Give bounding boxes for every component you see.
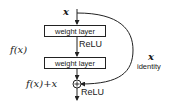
weight-layer-1-label: weight layer [55, 27, 95, 36]
relu-output-label: ReLU [81, 88, 104, 97]
add-node [73, 80, 81, 88]
weight-layer-2: weight layer [44, 57, 106, 69]
identity-label: identity [137, 63, 161, 71]
residual-function-label: f(x) [10, 45, 27, 55]
sum-label: f(x)+x [26, 79, 57, 89]
shortcut-x-label: x [148, 52, 154, 62]
residual-block-diagram: x weight layer ReLU weight layer f(x) f(… [0, 0, 179, 107]
weight-layer-1: weight layer [44, 25, 106, 37]
relu-middle-label: ReLU [79, 40, 102, 49]
weight-layer-2-label: weight layer [55, 59, 95, 68]
input-x-label: x [63, 7, 69, 17]
